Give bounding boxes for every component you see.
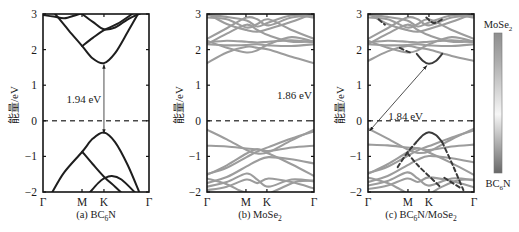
y-tick-label: 0 xyxy=(356,115,362,127)
y-axis-label: 能量/eV xyxy=(172,86,185,124)
colorbar-bottom-label: BC6N xyxy=(485,178,511,192)
caption-c-text: (c) BC xyxy=(385,209,413,221)
band-line xyxy=(416,132,443,143)
caption-c: (c) BC6N/MoSe2 xyxy=(385,209,457,223)
x-tick-label-m: M xyxy=(403,196,413,208)
y-tick-label: −2 xyxy=(189,186,201,198)
x-tick-label-m: M xyxy=(77,196,87,208)
colorbar-top-text: MoSe xyxy=(484,19,509,30)
x-tick-label-gamma: Γ xyxy=(40,196,47,208)
band-line xyxy=(82,152,121,193)
band-structure-figure: 能量/eV 1.94 eV3210−1−2ΓMKΓ (a) BC6N 能量/eV… xyxy=(0,0,519,232)
y-tick-label: −1 xyxy=(350,150,362,162)
colorbar: MoSe2 BC6N xyxy=(484,19,513,192)
y-tick-label: −1 xyxy=(25,150,37,162)
caption-b-subscript: 2 xyxy=(278,214,282,223)
colorbar-bottom-text: BC xyxy=(485,178,499,189)
panel-b-mose2: 能量/eV 1.86 eV3210−1−2ΓMKΓ (b) MoSe2 xyxy=(172,8,318,222)
band-gap-label: 1.84 eV xyxy=(388,110,423,122)
band-line xyxy=(417,54,442,64)
colorbar-gradient xyxy=(494,33,502,173)
y-tick-label: 1 xyxy=(195,79,201,91)
x-tick-label-gamma: Γ xyxy=(311,196,318,208)
y-tick-label: −1 xyxy=(189,150,201,162)
y-tick-label: −2 xyxy=(350,186,362,198)
x-tick-label-gamma: Γ xyxy=(204,196,211,208)
caption-c-subscript-2: 2 xyxy=(453,214,457,223)
panel-a-bc6n: 能量/eV 1.94 eV3210−1−2ΓMKΓ (a) BC6N xyxy=(7,8,153,222)
y-tick-label: −2 xyxy=(25,186,37,198)
y-tick-label: 2 xyxy=(356,44,362,56)
y-tick-label: 3 xyxy=(356,8,362,20)
band-gap-label: 1.86 eV xyxy=(277,89,312,101)
band-lines xyxy=(207,13,314,192)
caption-c-middle: N/MoSe xyxy=(417,209,453,220)
colorbar-top-subscript: 2 xyxy=(509,25,513,33)
band-gap-label: 1.94 eV xyxy=(66,93,101,105)
y-tick-label: 3 xyxy=(31,8,37,20)
y-tick-label: 2 xyxy=(31,44,37,56)
y-tick-label: 1 xyxy=(356,79,362,91)
x-tick-label-gamma: Γ xyxy=(471,196,478,208)
x-tick-label-gamma: Γ xyxy=(365,196,372,208)
y-axis-label: 能量/eV xyxy=(333,86,346,124)
x-tick-label-k: K xyxy=(263,196,272,208)
caption-b: (b) MoSe2 xyxy=(238,209,282,223)
caption-a: (a) BC6N xyxy=(76,209,116,223)
y-tick-label: 0 xyxy=(31,115,37,127)
panel-c-heterostructure: 能量/eV 1.84 eV3210−1−2ΓMKΓ (c) BC6N/MoSe2 xyxy=(333,8,478,222)
colorbar-top-label: MoSe2 xyxy=(484,19,513,33)
x-tick-label-k: K xyxy=(425,196,434,208)
x-tick-label-m: M xyxy=(241,196,251,208)
x-tick-label-k: K xyxy=(100,196,109,208)
caption-a-text: (a) BC xyxy=(76,209,104,221)
y-tick-label: 2 xyxy=(195,44,201,56)
caption-a-suffix: N xyxy=(108,209,116,220)
caption-b-text: (b) MoSe xyxy=(238,209,278,221)
y-axis-label: 能量/eV xyxy=(7,86,20,124)
x-tick-label-gamma: Γ xyxy=(146,196,153,208)
y-tick-label: 0 xyxy=(195,115,201,127)
y-tick-label: 3 xyxy=(195,8,201,20)
y-tick-label: 1 xyxy=(31,79,37,91)
band-lines xyxy=(368,13,474,192)
colorbar-bottom-suffix: N xyxy=(503,178,511,189)
